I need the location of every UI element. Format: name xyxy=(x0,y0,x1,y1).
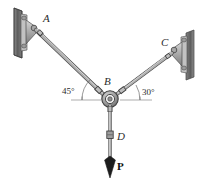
force-p-arrowhead xyxy=(105,156,116,178)
cable-ab-ferrule-b xyxy=(96,88,101,93)
bracket-a xyxy=(21,14,37,51)
cable-ab-ferrule-a xyxy=(38,31,42,35)
bracket-c xyxy=(171,36,187,73)
angle-arc-30 xyxy=(136,85,140,100)
ring-b-hub xyxy=(108,97,112,101)
collar-d xyxy=(107,131,113,139)
bracket-c-eye-hole xyxy=(173,49,175,51)
figure-canvas: A B C D P 45° 30° xyxy=(0,0,208,183)
label-force-p: P xyxy=(117,160,124,172)
cable-cb-ferrule-c xyxy=(166,55,170,58)
cable-cb-ferrule-b xyxy=(120,88,126,92)
angle-label-right: 30° xyxy=(142,87,155,97)
label-b: B xyxy=(104,75,111,87)
angle-label-left: 45° xyxy=(62,86,75,96)
label-d: D xyxy=(116,130,125,142)
cable-bd xyxy=(105,105,116,178)
ring-b xyxy=(102,91,118,107)
free-body-diagram: A B C D P 45° 30° xyxy=(0,0,208,183)
bracket-a-arm xyxy=(26,20,36,44)
label-a: A xyxy=(42,12,50,24)
cable-ab-highlight xyxy=(37,29,103,94)
label-c: C xyxy=(161,36,169,48)
bracket-c-arm xyxy=(172,42,182,66)
